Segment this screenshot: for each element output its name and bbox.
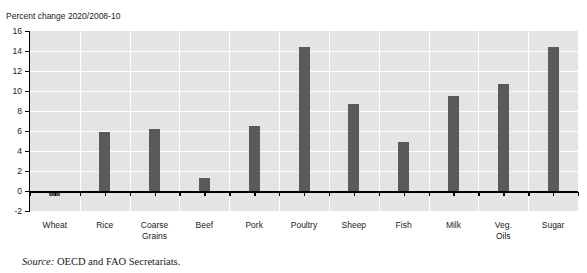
vertical-gridline — [179, 31, 180, 211]
plot-area — [30, 31, 578, 211]
x-axis-category-label: Pork — [229, 220, 279, 231]
bar — [398, 142, 409, 191]
y-axis-tick-label: 16 — [0, 27, 22, 36]
x-axis-tick — [30, 192, 31, 196]
vertical-gridline — [329, 31, 330, 211]
vertical-gridline — [279, 31, 280, 211]
x-axis-category-label: Beef — [179, 220, 229, 231]
bar — [249, 126, 260, 191]
x-axis-tick — [379, 192, 380, 196]
x-axis-category-label: Milk — [429, 220, 479, 231]
bar — [299, 47, 310, 191]
x-axis-category-label: Veg. Oils — [478, 220, 528, 241]
y-axis-title: Percent change 2020/2008-10 — [6, 11, 120, 21]
y-axis-tick — [25, 71, 30, 72]
x-axis-tick — [80, 192, 81, 196]
bar — [149, 129, 160, 191]
vertical-gridline — [379, 31, 380, 211]
source-text: OECD and FAO Secretariats. — [54, 256, 180, 267]
x-axis-category-label: Coarse Grains — [130, 220, 180, 241]
y-axis-tick — [25, 171, 30, 172]
y-axis-tick-label: 6 — [0, 127, 22, 136]
x-axis-tick — [55, 192, 56, 196]
vertical-gridline — [130, 31, 131, 211]
source-note: Source: OECD and FAO Secretariats. — [22, 256, 180, 267]
y-axis-tick — [25, 51, 30, 52]
bar — [448, 96, 459, 191]
x-axis-tick — [130, 192, 131, 196]
y-axis-tick-label: 8 — [0, 107, 22, 116]
x-axis-tick — [429, 192, 430, 196]
x-axis-category-label: Rice — [80, 220, 130, 231]
vertical-gridline — [429, 31, 430, 211]
bar — [548, 47, 559, 191]
x-axis-tick — [503, 192, 504, 196]
y-axis-tick — [25, 211, 30, 212]
x-axis-tick — [254, 192, 255, 196]
bar — [348, 104, 359, 191]
x-axis-tick — [155, 192, 156, 196]
y-axis-tick — [25, 31, 30, 32]
x-axis-category-label: Fish — [379, 220, 429, 231]
x-axis-tick — [279, 192, 280, 196]
clipped-header-text: ' ' ' ' ' — [140, 0, 205, 1]
x-axis-category-labels: WheatRiceCoarse GrainsBeefPorkPoultryShe… — [30, 220, 578, 252]
x-axis-tick — [553, 192, 554, 196]
chart-plot-wrapper: 1614121086420-2 — [0, 27, 587, 217]
x-axis-tick — [453, 192, 454, 196]
x-axis-tick — [304, 192, 305, 196]
x-axis-tick — [528, 192, 529, 196]
x-axis-category-label: Wheat — [30, 220, 80, 231]
bar — [498, 84, 509, 191]
x-axis-tick — [578, 192, 579, 196]
x-axis-tick — [404, 192, 405, 196]
x-axis-category-label: Sugar — [528, 220, 578, 231]
source-label: Source: — [22, 256, 54, 267]
y-axis-tick — [25, 131, 30, 132]
y-axis-tick-label: 14 — [0, 47, 22, 56]
y-axis-tick — [25, 151, 30, 152]
vertical-gridline — [478, 31, 479, 211]
y-axis-tick-label: 12 — [0, 67, 22, 76]
x-axis-category-label: Poultry — [279, 220, 329, 231]
clipped-header-strip: ' ' ' ' ' — [0, 0, 587, 7]
x-axis-tick — [229, 192, 230, 196]
y-axis-tick-label: 0 — [0, 187, 22, 196]
bar — [199, 178, 210, 191]
x-axis-tick — [329, 192, 330, 196]
y-axis-tick-label: 4 — [0, 147, 22, 156]
x-axis-category-label: Sheep — [329, 220, 379, 231]
y-axis-tick-label: -2 — [0, 207, 22, 216]
y-axis-tick — [25, 111, 30, 112]
x-axis-tick — [204, 192, 205, 196]
vertical-gridline — [528, 31, 529, 211]
y-axis-tick-label: 10 — [0, 87, 22, 96]
bar — [99, 132, 110, 191]
x-axis-tick — [105, 192, 106, 196]
vertical-gridline — [80, 31, 81, 211]
y-axis-tick — [25, 91, 30, 92]
x-axis-tick — [478, 192, 479, 196]
x-axis-tick — [179, 192, 180, 196]
y-axis-tick-label: 2 — [0, 167, 22, 176]
x-axis-tick — [354, 192, 355, 196]
vertical-gridline — [229, 31, 230, 211]
